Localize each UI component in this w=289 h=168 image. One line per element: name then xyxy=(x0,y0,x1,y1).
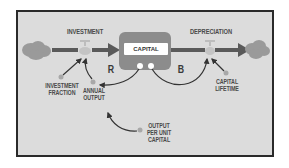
investment-flow-label: INVESTMENT xyxy=(66,28,104,35)
diagram-canvas: CAPITAL INVESTMENT DEPRECIATION INVESTME… xyxy=(0,0,289,168)
annual-output-dot xyxy=(91,80,96,85)
output-per-unit-capital-dot xyxy=(138,128,143,133)
output-per-unit-capital-label: OUTPUT PER UNIT CAPITAL xyxy=(143,122,174,143)
balancing-loop-label: B xyxy=(178,63,184,75)
stock-connector-dot xyxy=(137,63,143,69)
capital-lifetime-label: CAPITAL LIFETIME xyxy=(210,78,244,92)
annual-output-label: ANNUAL OUTPUT xyxy=(82,87,107,101)
reinforcing-loop-label: R xyxy=(108,63,114,75)
depreciation-flow-label: DEPRECIATION xyxy=(189,28,233,35)
investment-fraction-label: INVESTMENT FRACTION xyxy=(42,82,81,96)
investment-fraction-dot xyxy=(59,75,64,80)
stock-connector-dot xyxy=(148,63,154,69)
capital-stock-label: CAPITAL xyxy=(124,43,168,55)
capital-lifetime-dot xyxy=(224,71,229,76)
